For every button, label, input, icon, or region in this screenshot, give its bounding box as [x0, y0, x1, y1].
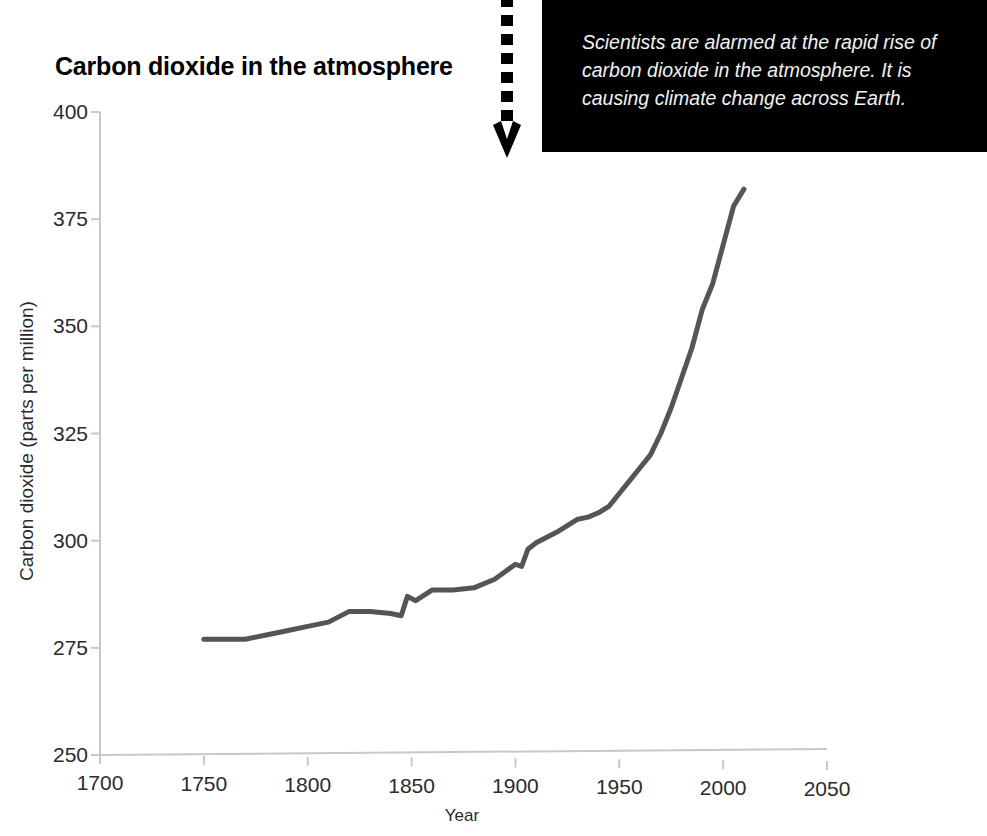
x-tick-label: 1700: [77, 771, 124, 795]
x-tick-label: 1750: [180, 772, 227, 796]
x-tick-label: 2000: [700, 776, 747, 800]
x-tick-label: 1900: [492, 774, 539, 798]
x-tick-label: 1800: [284, 773, 331, 797]
x-tick-label: 1950: [596, 775, 643, 799]
data-series-line: [204, 189, 744, 639]
chart-page: Carbon dioxide in the atmosphere Scienti…: [0, 0, 987, 836]
y-tick-label: 275: [20, 636, 88, 660]
plot-area: 250275300325350375400 170017501800185019…: [0, 0, 987, 836]
y-axis-title: Carbon dioxide (parts per million): [16, 276, 38, 606]
x-tick-marks: [100, 755, 827, 770]
y-tick-label: 400: [20, 100, 88, 124]
x-tick-label: 2050: [804, 777, 851, 801]
x-tick-label: 1850: [388, 774, 435, 798]
chart-svg: [0, 0, 987, 836]
y-tick-label: 375: [20, 207, 88, 231]
axis-lines: [100, 112, 827, 755]
y-tick-marks: [91, 112, 100, 755]
y-tick-label: 250: [20, 743, 88, 767]
x-axis-title: Year: [445, 806, 479, 826]
